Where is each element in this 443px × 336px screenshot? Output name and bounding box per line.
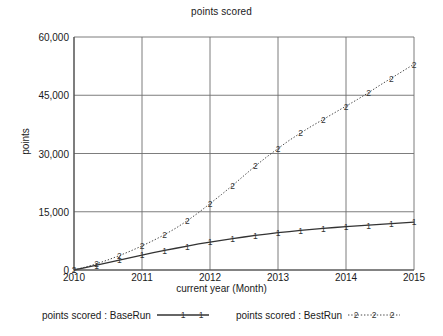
chart-legend: points scored : BaseRun11points scored :… xyxy=(0,308,443,322)
series-marker-1: 1 xyxy=(412,217,417,227)
series-marker-2: 2 xyxy=(117,251,122,261)
svg-text:1: 1 xyxy=(181,310,186,320)
points-scored-chart: points scored points current year (Month… xyxy=(0,0,443,336)
svg-text:2: 2 xyxy=(372,310,377,320)
svg-text:1: 1 xyxy=(199,310,204,320)
series-marker-2: 2 xyxy=(208,199,213,209)
series-marker-2: 2 xyxy=(366,88,371,98)
series-marker-2: 2 xyxy=(140,241,145,251)
legend-label: points scored : BestRun xyxy=(236,310,342,321)
series-marker-2: 2 xyxy=(321,115,326,125)
svg-text:2: 2 xyxy=(354,310,359,320)
legend-entry-1[interactable]: points scored : BaseRun11 xyxy=(42,308,210,322)
series-marker-2: 2 xyxy=(230,181,235,191)
series-marker-2: 2 xyxy=(162,230,167,240)
series-marker-2: 2 xyxy=(412,60,417,70)
series-marker-1: 1 xyxy=(185,242,190,252)
legend-label: points scored : BaseRun xyxy=(42,310,151,321)
series-marker-1: 1 xyxy=(389,219,394,229)
series-marker-2: 2 xyxy=(389,74,394,84)
series-marker-1: 1 xyxy=(321,224,326,234)
svg-text:2: 2 xyxy=(390,310,395,320)
series-marker-2: 2 xyxy=(298,128,303,138)
series-marker-1: 1 xyxy=(230,234,235,244)
legend-line-sample: 11 xyxy=(156,308,210,322)
series-line-1 xyxy=(74,222,414,270)
legend-entry-2[interactable]: points scored : BestRun222 xyxy=(236,308,401,322)
plot-area: 11111111111111112222222222222222 xyxy=(0,0,443,336)
series-marker-1: 1 xyxy=(298,226,303,236)
legend-line-sample: 222 xyxy=(347,308,401,322)
series-marker-2: 2 xyxy=(276,144,281,154)
series-marker-1: 1 xyxy=(253,231,258,241)
series-marker-2: 2 xyxy=(185,216,190,226)
series-marker-1: 1 xyxy=(344,222,349,232)
series-marker-1: 1 xyxy=(140,250,145,260)
series-marker-1: 1 xyxy=(208,237,213,247)
series-marker-1: 1 xyxy=(366,221,371,231)
series-marker-1: 1 xyxy=(276,228,281,238)
series-marker-2: 2 xyxy=(344,102,349,112)
series-marker-2: 2 xyxy=(253,161,258,171)
series-marker-2: 2 xyxy=(94,259,99,269)
series-marker-1: 1 xyxy=(162,246,167,256)
